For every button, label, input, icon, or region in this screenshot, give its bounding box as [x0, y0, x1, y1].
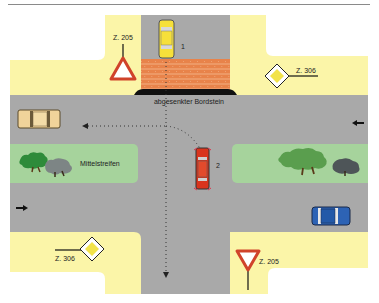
sign-label-z306-top: Z. 306 — [296, 67, 316, 74]
car-beige — [18, 110, 60, 128]
intersection-diagram: Mittelstreifen 1 2 — [0, 0, 379, 303]
sidewalk-top-right — [230, 15, 368, 95]
car-2-red — [194, 148, 211, 190]
curb-lowered — [134, 89, 237, 95]
sidewalk-top-left — [10, 15, 141, 95]
sign-label-z205-bottom: Z. 205 — [259, 258, 279, 265]
lowered-curb-label: abgesenkter Bordstein — [154, 98, 224, 106]
sign-label-z306-bottom: Z. 306 — [55, 255, 75, 262]
sign-label-z205-top: Z. 205 — [113, 34, 133, 41]
sidewalk-bottom-left — [10, 232, 141, 294]
car-2-label: 2 — [216, 162, 220, 169]
car-1-yellow — [159, 20, 174, 58]
car-blue — [312, 207, 350, 225]
median-label: Mittelstreifen — [80, 160, 120, 167]
brick-crossing — [141, 59, 230, 90]
car-1-label: 1 — [181, 43, 185, 50]
